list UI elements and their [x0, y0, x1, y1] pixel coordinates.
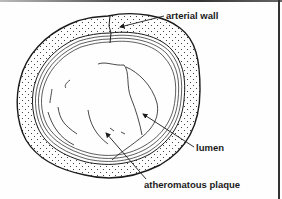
artery-illustration: [0, 0, 282, 199]
artery-cross-section-diagram: arterial wall lumen atheromatous plaque: [0, 0, 282, 199]
lumen-label: lumen: [196, 143, 224, 153]
arterial-wall-label: arterial wall: [166, 11, 218, 21]
plaque-label: atheromatous plaque: [144, 180, 240, 190]
arterial-wall-outer: [17, 14, 200, 178]
